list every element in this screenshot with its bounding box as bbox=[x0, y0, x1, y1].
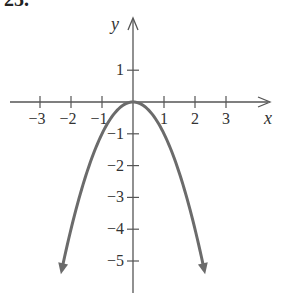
parabola-plot: −3−2−11231−1−2−3−4−5xy bbox=[0, 0, 281, 293]
y-tick-label: 1 bbox=[116, 61, 124, 78]
x-tick-label: 3 bbox=[222, 110, 230, 127]
x-axis-label: x bbox=[263, 108, 272, 128]
x-tick-label: −2 bbox=[59, 110, 76, 127]
tick-labels: −3−2−11231−1−2−3−4−5xy bbox=[28, 14, 272, 269]
axes bbox=[10, 18, 270, 293]
right-arrow-icon bbox=[198, 262, 208, 274]
y-tick-label: −2 bbox=[107, 157, 124, 174]
left-arrow-icon bbox=[58, 262, 68, 274]
x-tick-label: −1 bbox=[90, 110, 107, 127]
x-tick-label: 2 bbox=[191, 110, 199, 127]
x-tick-label: −3 bbox=[28, 110, 45, 127]
y-tick-label: −3 bbox=[107, 188, 124, 205]
y-tick-label: −4 bbox=[107, 220, 124, 237]
y-tick-label: −1 bbox=[107, 125, 124, 142]
x-tick-label: 1 bbox=[160, 110, 168, 127]
y-tick-label: −5 bbox=[107, 252, 124, 269]
y-axis-label: y bbox=[109, 14, 119, 34]
